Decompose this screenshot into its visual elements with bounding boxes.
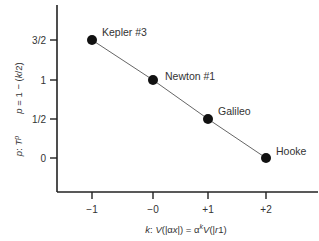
data-point-galileo	[203, 114, 213, 124]
y-tick-label: 1	[40, 75, 46, 86]
y-axis-label-top: p = 1 − (k/2)	[13, 62, 24, 114]
series-line	[92, 40, 266, 158]
point-label-galileo: Galileo	[218, 105, 251, 117]
x-tick-label: −0	[147, 204, 159, 215]
point-label-hooke: Hooke	[276, 145, 307, 157]
y-tick-label: 1/2	[32, 114, 46, 125]
data-point-newton	[148, 75, 158, 85]
chart: 3/2 1 1/2 0 −1 −0 +1 +2 Kepler #3 Newton…	[0, 0, 319, 241]
point-label-newton: Newton #1	[165, 70, 215, 82]
y-axis-label-bottom: p: Tp	[13, 136, 24, 157]
x-tick-label: +2	[260, 204, 272, 215]
data-point-kepler	[87, 35, 97, 45]
x-tick-label: +1	[202, 204, 214, 215]
x-ticks: −1 −0 +1 +2	[86, 192, 272, 215]
x-axis-label: k: V(|αx|) = αkV(|r1)	[145, 223, 226, 235]
y-ticks: 3/2 1 1/2 0	[32, 35, 57, 164]
x-tick-label: −1	[86, 204, 98, 215]
point-label-kepler: Kepler #3	[102, 26, 147, 38]
data-point-hooke	[261, 153, 271, 163]
y-tick-label: 3/2	[32, 35, 46, 46]
y-tick-label: 0	[40, 153, 46, 164]
